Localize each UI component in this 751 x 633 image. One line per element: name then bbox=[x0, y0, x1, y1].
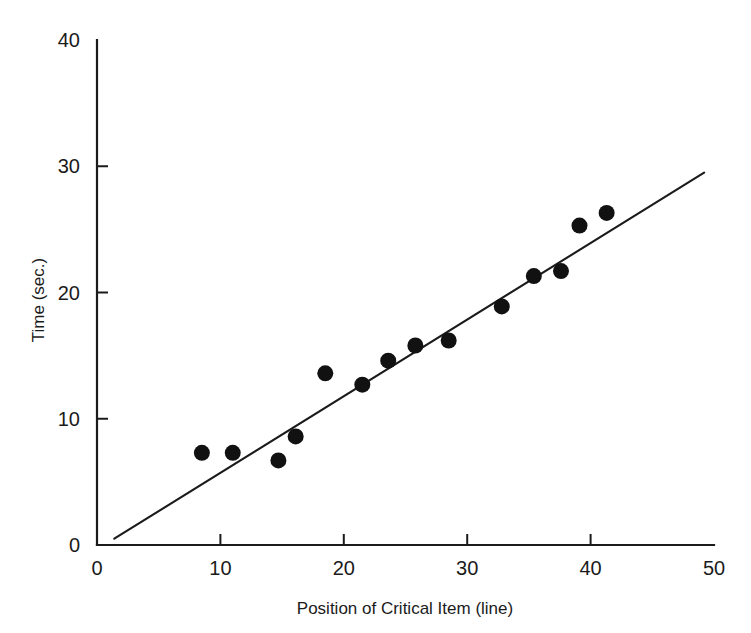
x-axis-title: Position of Critical Item (line) bbox=[297, 599, 513, 618]
y-tick-label: 10 bbox=[58, 408, 80, 430]
y-axis-ticks: 010203040 bbox=[58, 29, 108, 556]
x-tick-label: 30 bbox=[456, 557, 478, 579]
x-tick-label: 40 bbox=[579, 557, 601, 579]
y-tick-label: 0 bbox=[69, 534, 80, 556]
data-point bbox=[270, 452, 286, 468]
data-point bbox=[571, 218, 587, 234]
chart-figure: 010203040 01020304050 Position of Critic… bbox=[0, 0, 751, 633]
y-tick-label: 20 bbox=[58, 282, 80, 304]
y-tick-label: 30 bbox=[58, 155, 80, 177]
data-point bbox=[441, 332, 457, 348]
y-axis-title: Time (sec.) bbox=[29, 258, 48, 342]
data-point bbox=[194, 445, 210, 461]
data-point bbox=[380, 353, 396, 369]
data-point bbox=[354, 377, 370, 393]
data-point bbox=[553, 263, 569, 279]
x-tick-label: 0 bbox=[91, 557, 102, 579]
data-point bbox=[407, 338, 423, 354]
x-axis-ticks: 01020304050 bbox=[91, 534, 725, 579]
x-tick-label: 50 bbox=[703, 557, 725, 579]
data-point bbox=[288, 428, 304, 444]
plot-axes bbox=[97, 40, 714, 545]
data-point bbox=[494, 298, 510, 314]
y-tick-label: 40 bbox=[58, 29, 80, 51]
x-tick-label: 10 bbox=[209, 557, 231, 579]
data-point bbox=[526, 268, 542, 284]
regression-line bbox=[114, 173, 704, 539]
scatter-plot-canvas: 010203040 01020304050 Position of Critic… bbox=[0, 0, 751, 633]
data-point bbox=[317, 365, 333, 381]
data-points-group bbox=[194, 205, 615, 468]
data-point bbox=[225, 445, 241, 461]
x-tick-label: 20 bbox=[333, 557, 355, 579]
data-point bbox=[599, 205, 615, 221]
fit-line-group bbox=[114, 173, 704, 539]
